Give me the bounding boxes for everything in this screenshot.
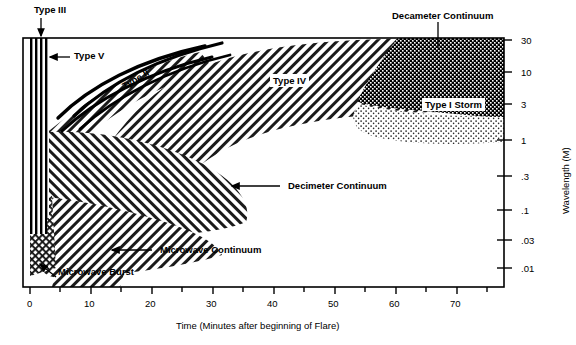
label-type-iv: Type IV <box>270 74 309 87</box>
x-axis-title: Time (Minutes after beginning of Flare) <box>176 320 339 331</box>
y-tick-label-0.1: .1 <box>521 205 529 216</box>
label-microwave-burst: Microwave Burst <box>58 266 134 277</box>
region-type-v <box>40 38 49 218</box>
y-tick-label-1: 1 <box>521 135 526 146</box>
label-type-iii: Type III <box>34 4 66 15</box>
plot-regions <box>30 38 504 287</box>
label-type-i-storm: Type I Storm <box>422 98 485 111</box>
y-tick-label-10: 10 <box>521 67 532 78</box>
x-tick-label-20: 20 <box>145 298 156 309</box>
y-tick-label-0.03: .03 <box>521 235 534 246</box>
y-tick-label-3: 3 <box>521 99 526 110</box>
x-tick-label-30: 30 <box>206 298 217 309</box>
x-tick-label-40: 40 <box>267 298 278 309</box>
y-tick-label-0.3: .3 <box>521 171 529 182</box>
label-decimeter-continuum: Decimeter Continuum <box>288 180 387 191</box>
label-microwave-continuum: Microwave Continuum <box>160 244 261 255</box>
x-tick-label-10: 10 <box>84 298 95 309</box>
label-type-v: Type V <box>74 50 104 61</box>
y-axis-title: Wavelength (M) <box>560 147 571 214</box>
y-tick-label-30: 30 <box>521 35 532 46</box>
x-tick-label-60: 60 <box>389 298 400 309</box>
y-tick-label-0.01: .01 <box>521 263 534 274</box>
solar-radio-burst-diagram: Type III Type V Type II Type IV Decamete… <box>0 0 576 345</box>
x-tick-label-50: 50 <box>328 298 339 309</box>
x-tick-label-0: 0 <box>27 298 32 309</box>
x-axis-ticks <box>30 287 487 294</box>
label-decameter-continuum: Decameter Continuum <box>392 10 493 21</box>
x-tick-label-70: 70 <box>450 298 461 309</box>
